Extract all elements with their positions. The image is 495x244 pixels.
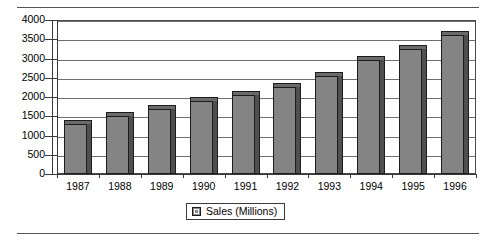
x-tick-1994 [350,174,351,178]
y-tick-mark-3500 [45,39,53,40]
bar-1989 [148,105,176,174]
y-tick-mark-inner-500 [53,155,58,156]
x-tick-1993 [308,174,309,178]
bottom-rule [17,233,479,234]
x-tick-label-1991: 1991 [225,181,267,192]
bar-front-face [190,101,213,174]
x-tick-1988 [99,174,100,178]
y-tick-mark-500 [45,155,53,156]
x-tick-1987 [57,174,58,178]
y-tick-label-2500: 2500 [3,72,45,82]
bar-top-face [273,83,301,87]
bar-top-face [232,91,260,95]
x-tick-1989 [141,174,142,178]
legend-label: Sales (Millions) [206,206,277,217]
x-tick-label-1989: 1989 [141,181,183,192]
bar-top-face [106,112,134,116]
y-tick-mark-0 [45,174,53,175]
x-tick-label-1990: 1990 [183,181,225,192]
y-tick-label-3000: 3000 [3,53,45,63]
y-tick-label-2000: 2000 [3,91,45,101]
bar-front-face [357,60,380,174]
chart-legend: Sales (Millions) [186,203,285,220]
bar-front-face [148,109,171,174]
y-tick-label-500: 500 [3,149,45,159]
gridline-4000 [57,21,475,22]
bar-top-face [315,72,343,76]
y-tick-mark-1500 [45,116,53,117]
bar-front-face [106,116,129,174]
y-tick-mark-2000 [45,97,53,98]
bar-top-face [148,105,176,109]
x-tick-1990 [183,174,184,178]
x-tick-label-1988: 1988 [99,181,141,192]
x-tick-1991 [225,174,226,178]
y-tick-mark-inner-1500 [53,116,58,117]
legend-swatch-icon [192,207,201,216]
top-rule [17,7,479,8]
bar-front-face [64,124,87,174]
y-tick-mark-inner-1000 [53,136,58,137]
y-tick-label-3500: 3500 [3,33,45,43]
bar-1992 [273,83,301,174]
x-tick-1995 [392,174,393,178]
chart-figure: 05001000150020002500300035004000 1987198… [0,0,495,244]
y-tick-mark-inner-2500 [53,78,58,79]
x-tick-1996 [434,174,435,178]
y-tick-label-0: 0 [3,168,45,178]
bar-front-face [273,87,296,174]
x-tick-label-1987: 1987 [57,181,99,192]
y-tick-mark-4000 [45,20,53,21]
bar-1996 [441,31,469,174]
bar-top-face [399,45,427,49]
bar-top-face [64,120,92,124]
x-tick-1992 [267,174,268,178]
bar-1995 [399,45,427,174]
bar-1994 [357,56,385,174]
y-tick-label-1500: 1500 [3,110,45,120]
bar-top-face [357,56,385,60]
bar-front-face [315,76,338,174]
y-tick-mark-inner-2000 [53,97,58,98]
x-tick-label-1996: 1996 [434,181,476,192]
bar-1988 [106,112,134,174]
x-tick-label-1995: 1995 [392,181,434,192]
bar-front-face [441,35,464,174]
y-tick-mark-1000 [45,136,53,137]
y-tick-label-4000: 4000 [3,14,45,24]
y-tick-mark-inner-4000 [53,20,58,21]
x-tick-end [476,174,477,178]
bar-front-face [232,95,255,174]
bar-top-face [441,31,469,35]
bar-1993 [315,72,343,174]
bar-1991 [232,91,260,174]
y-tick-mark-inner-3000 [53,59,58,60]
y-tick-mark-3000 [45,59,53,60]
bar-front-face [399,49,422,174]
bar-top-face [190,97,218,101]
x-tick-label-1992: 1992 [267,181,309,192]
y-tick-label-1000: 1000 [3,130,45,140]
x-tick-label-1993: 1993 [308,181,350,192]
y-tick-mark-inner-3500 [53,39,58,40]
gridline-3500 [57,40,475,41]
x-tick-label-1994: 1994 [350,181,392,192]
bar-1990 [190,97,218,174]
bar-1987 [64,120,92,174]
y-tick-mark-2500 [45,78,53,79]
